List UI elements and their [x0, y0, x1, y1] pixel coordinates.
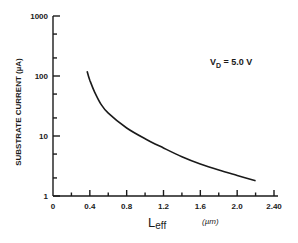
y-tick-label: 10	[39, 132, 48, 141]
annotation-vd: VD = 5.0 V	[210, 57, 252, 69]
data-series-line	[87, 71, 256, 181]
x-axis-unit: (µm)	[202, 217, 219, 226]
axes	[53, 16, 278, 196]
x-axis-label: Leff	[148, 215, 166, 231]
y-axis-label: SUBSTRATE CURRENT (µA)	[14, 58, 23, 166]
x-tick-label: 1.6	[195, 202, 207, 211]
x-tick-label: 0	[51, 202, 56, 211]
x-tick-label: 2.0	[232, 202, 244, 211]
tick-labels: 110100100000.40.81.21.62.02.40	[30, 12, 282, 211]
chart: 110100100000.40.81.21.62.02.40 SUBSTRATE…	[0, 0, 298, 243]
x-tick-label: 1.2	[158, 202, 170, 211]
y-tick-label: 1	[44, 192, 49, 201]
x-tick-label: 0.4	[84, 202, 96, 211]
y-tick-label: 100	[35, 72, 49, 81]
x-tick-label: 2.40	[266, 202, 282, 211]
x-tick-label: 0.8	[121, 202, 133, 211]
y-tick-label: 1000	[30, 12, 48, 21]
